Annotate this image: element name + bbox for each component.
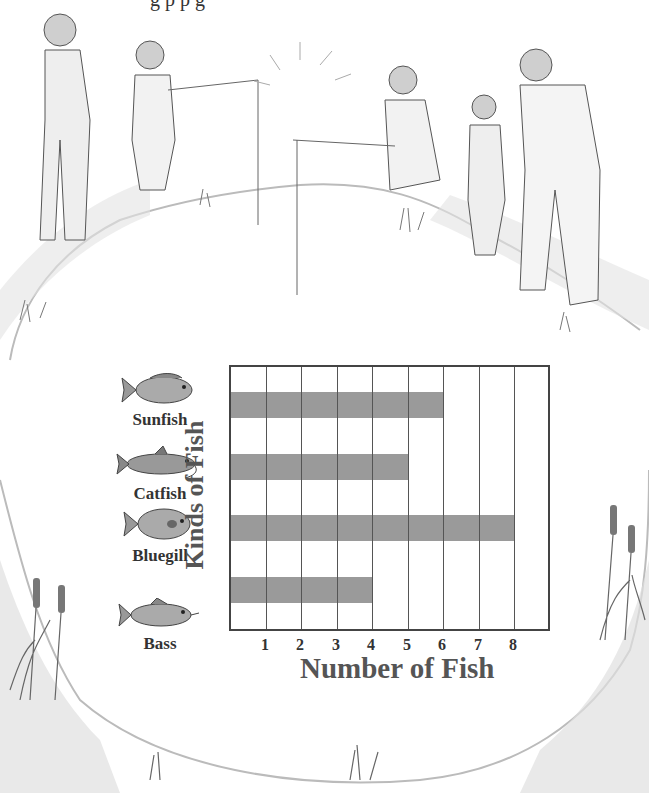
x-axis-label: Number of Fish	[300, 652, 494, 685]
cropped-header-text: g p p g	[150, 0, 205, 11]
grid-line	[337, 367, 338, 629]
legend-item-bass: Bass	[90, 598, 230, 654]
bar-bluegill	[231, 515, 515, 541]
grid-line	[372, 367, 373, 629]
y-axis-label-text: Kinds of Fish	[180, 421, 210, 570]
x-tick-8: 8	[509, 636, 517, 654]
bar-catfish	[231, 454, 408, 480]
sunfish-icon	[120, 372, 200, 408]
grid-line	[479, 367, 480, 629]
grid-line	[514, 367, 515, 629]
bar-bass	[231, 577, 373, 603]
bar-chart-plot-area	[229, 365, 550, 631]
bass-icon	[117, 598, 203, 632]
grid-line	[301, 367, 302, 629]
grid-line	[408, 367, 409, 629]
grid-line	[266, 367, 267, 629]
legend-label: Bass	[90, 634, 230, 654]
grid-line	[443, 367, 444, 629]
x-tick-1: 1	[261, 636, 269, 654]
